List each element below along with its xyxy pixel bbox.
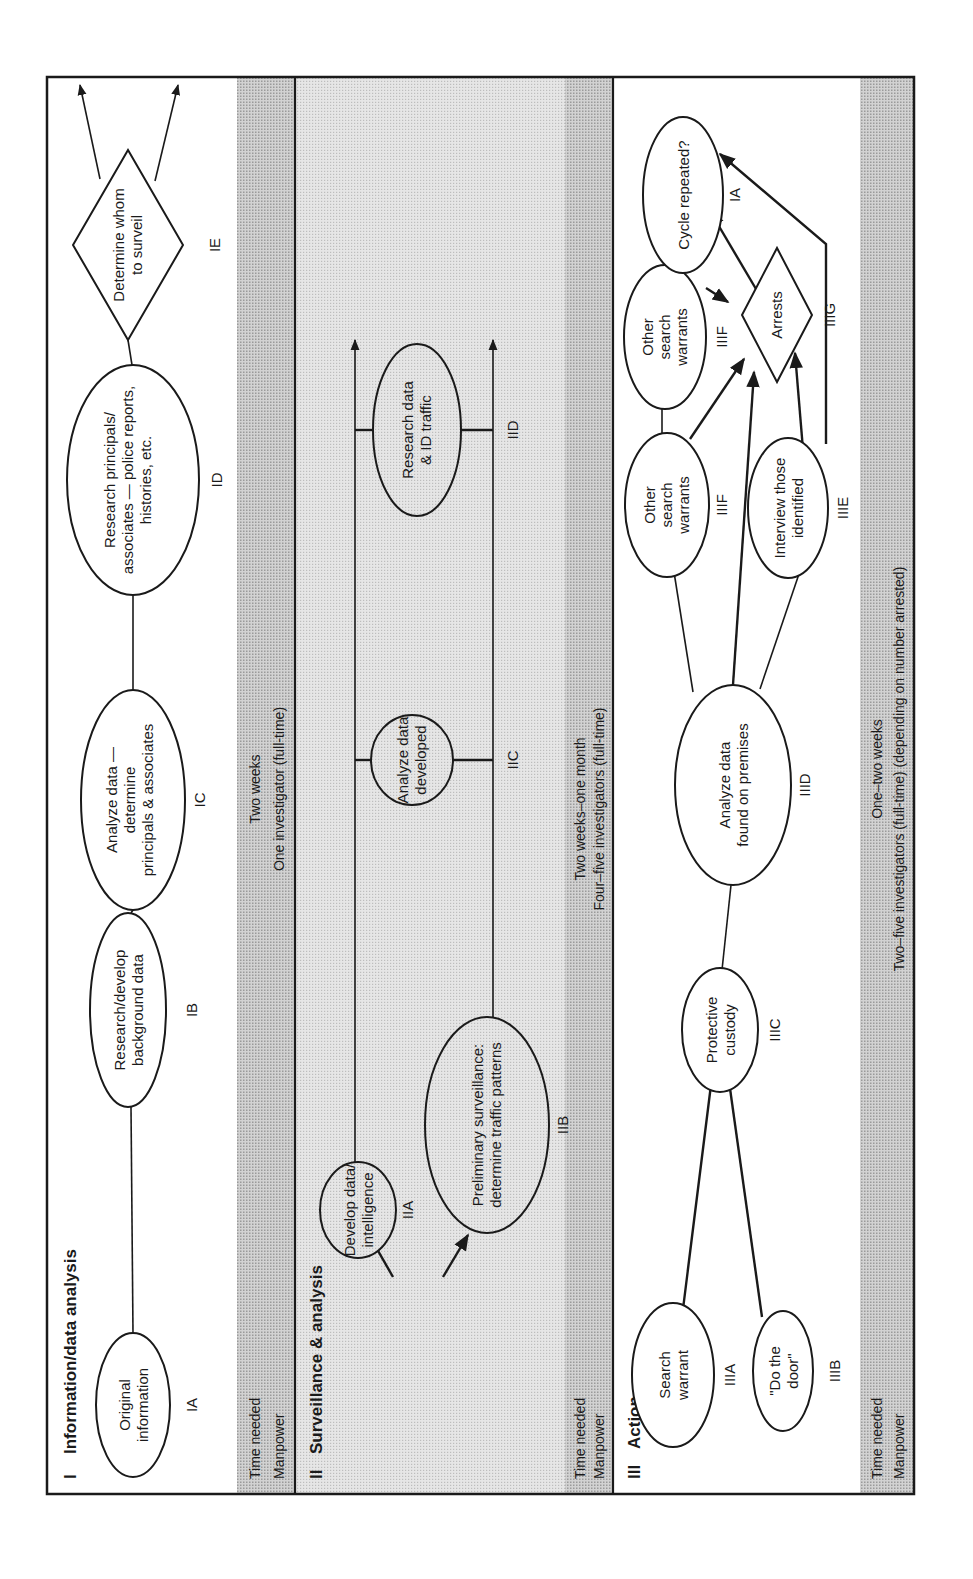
edge-iiid-iiie: [760, 571, 800, 689]
svg-text:IIIE: IIIE: [834, 497, 851, 520]
svg-text:Preliminary surveillance:: Preliminary surveillance:: [469, 1044, 486, 1207]
svg-text:IIB: IIB: [554, 1116, 571, 1134]
svg-text:Research/develop: Research/develop: [111, 950, 128, 1071]
svg-text:IIIF: IIIF: [713, 494, 730, 516]
node-iiif-other-search-warrants-2: Other search warrants IIIF: [624, 265, 730, 409]
svg-text:IIIF: IIIF: [713, 326, 730, 348]
svg-text:Protective: Protective: [703, 997, 720, 1064]
svg-text:II: II: [307, 1470, 326, 1479]
svg-text:Cycle repeated?: Cycle repeated?: [675, 140, 692, 249]
svg-text:Arrests: Arrests: [768, 291, 785, 339]
edge-iiic-iiid: [722, 885, 731, 970]
section-ii-time-label: Time needed: [572, 1398, 588, 1479]
svg-text:warrants: warrants: [673, 308, 690, 367]
node-ib-research-develop: Research/develop background data IB: [90, 913, 200, 1107]
node-iiid-analyze-premises: Analyze data found on premises IIID: [675, 685, 813, 885]
svg-text:histories, etc.: histories, etc.: [137, 436, 154, 524]
section-ii-manpower-value: Four–five investigators (full-time): [591, 707, 607, 910]
section-i-time-label: Time needed: [247, 1398, 263, 1479]
svg-text:Analyze data: Analyze data: [716, 741, 733, 828]
svg-text:developed: developed: [412, 725, 429, 794]
svg-text:determine: determine: [121, 767, 138, 834]
svg-text:door": door": [784, 1353, 801, 1388]
svg-text:warrants: warrants: [675, 476, 692, 535]
svg-text:to surveil: to surveil: [128, 215, 145, 275]
edge-ie-exit-2: [155, 85, 178, 181]
svg-text:I: I: [61, 1474, 80, 1479]
node-iiie-interview-identified: Interview those identified IIIE: [748, 438, 851, 578]
svg-text:Information/data analysis: Information/data analysis: [61, 1249, 80, 1454]
svg-text:Analyze data —: Analyze data —: [103, 747, 120, 853]
svg-text:IE: IE: [206, 238, 223, 252]
svg-text:information: information: [134, 1368, 151, 1442]
svg-text:principals & associates: principals & associates: [139, 724, 156, 877]
svg-text:identified: identified: [789, 478, 806, 538]
svg-text:custody: custody: [721, 1004, 738, 1056]
section-ii-time-value: Two weeks–one month: [572, 737, 588, 880]
node-cycle-repeated: Cycle repeated? IA: [643, 117, 743, 273]
svg-text:Analyze data: Analyze data: [394, 716, 411, 803]
svg-text:Research principals/: Research principals/: [101, 411, 118, 548]
svg-text:IIIG: IIIG: [821, 303, 838, 327]
section-i-manpower-label: Manpower: [271, 1413, 287, 1479]
edge-iiif2-iiig: [706, 288, 728, 302]
svg-text:IIIA: IIIA: [721, 1364, 738, 1387]
svg-text:Surveillance & analysis: Surveillance & analysis: [307, 1265, 326, 1454]
section-iii-time-label: Time needed: [869, 1398, 885, 1479]
svg-text:warrant: warrant: [674, 1349, 691, 1401]
svg-text:& ID traffic: & ID traffic: [417, 395, 434, 465]
svg-text:intelligence: intelligence: [359, 1172, 376, 1247]
svg-text:IC: IC: [191, 792, 208, 807]
section-ii-title: II Surveillance & analysis: [307, 1265, 326, 1479]
section-i-title: I Information/data analysis: [61, 1249, 80, 1479]
node-iiif-other-search-warrants-1: Other search warrants IIIF: [625, 433, 730, 577]
node-iiic-protective-custody: Protective custody IIIC: [682, 968, 783, 1092]
section-i-manpower-value: One investigator (full-time): [271, 707, 287, 871]
section-ii-manpower-label: Manpower: [591, 1413, 607, 1479]
svg-text:search: search: [656, 314, 673, 359]
svg-text:Original: Original: [116, 1379, 133, 1431]
svg-text:Other: Other: [641, 486, 658, 524]
svg-text:Search: Search: [656, 1351, 673, 1399]
node-iiia-search-warrant: Search warrant IIIA: [632, 1303, 738, 1447]
svg-text:found on premises: found on premises: [734, 723, 751, 846]
node-ie-determine-whom-diamond: Determine whom to surveil IE: [73, 150, 223, 340]
svg-text:determine traffic patterns: determine traffic patterns: [487, 1042, 504, 1208]
node-ic-analyze-data: Analyze data — determine principals & as…: [81, 690, 208, 910]
edge-ie-exit-1: [80, 85, 100, 179]
svg-text:IIIC: IIIC: [766, 1018, 783, 1042]
svg-text:Develop data/: Develop data/: [341, 1163, 358, 1256]
node-id-research-principals: Research principals/ associates — police…: [67, 365, 225, 595]
node-ia-original-information: Original information IA: [96, 1333, 200, 1477]
svg-text:"Do the: "Do the: [766, 1346, 783, 1396]
edge-ia-ib: [131, 1107, 133, 1333]
edge-iiid-iiif1: [674, 572, 693, 692]
svg-text:IIC: IIC: [504, 750, 521, 769]
svg-text:III: III: [625, 1465, 644, 1479]
svg-text:Determine whom: Determine whom: [110, 188, 127, 301]
svg-text:Interview those: Interview those: [771, 458, 788, 559]
svg-text:IA: IA: [183, 1398, 200, 1412]
svg-text:Other: Other: [639, 318, 656, 356]
svg-text:search: search: [658, 482, 675, 527]
svg-text:IIA: IIA: [399, 1201, 416, 1219]
svg-text:IA: IA: [726, 188, 743, 202]
edge-id-ie: [128, 340, 132, 365]
svg-text:Research data: Research data: [399, 381, 416, 479]
svg-text:background data: background data: [129, 953, 146, 1065]
section-iii-manpower-label: Manpower: [891, 1413, 907, 1479]
node-iiig-arrests-diamond: Arrests IIIG: [742, 248, 838, 382]
node-iiib-do-the-door: "Do the door" IIIB: [753, 1311, 843, 1431]
svg-text:IID: IID: [504, 420, 521, 439]
svg-text:ID: ID: [208, 472, 225, 487]
section-i-time-value: Two weeks: [247, 754, 263, 823]
section-iii-manpower-value: Two–five investigators (full-time) (depe…: [891, 567, 907, 972]
svg-text:IB: IB: [183, 1003, 200, 1017]
svg-text:associates — police reports,: associates — police reports,: [119, 386, 136, 574]
edge-iiia-iiic: [680, 1069, 713, 1333]
flowchart-diagram: I Information/data analysis II Surveilla…: [0, 0, 973, 1579]
svg-text:IIID: IIID: [796, 773, 813, 797]
edge-iiib-iiic: [727, 1067, 762, 1317]
svg-text:IIIB: IIIB: [826, 1360, 843, 1383]
section-iii-time-value: One–two weeks: [869, 719, 885, 819]
